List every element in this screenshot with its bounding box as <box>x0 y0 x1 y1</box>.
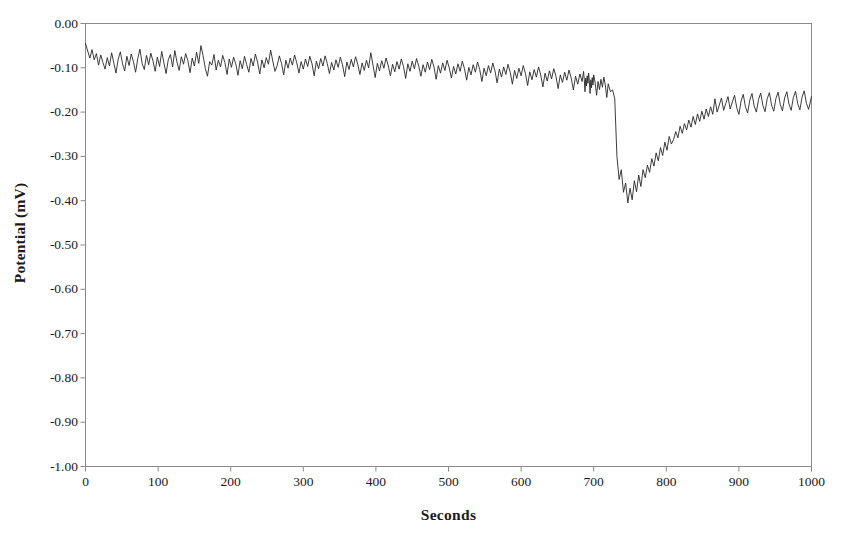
chart-figure: Potential (mV) 0.00-0.10-0.20-0.30-0.40-… <box>0 0 847 543</box>
x-axis-label: Seconds <box>85 506 812 524</box>
plot-area <box>0 0 847 543</box>
plot-frame <box>86 24 812 467</box>
